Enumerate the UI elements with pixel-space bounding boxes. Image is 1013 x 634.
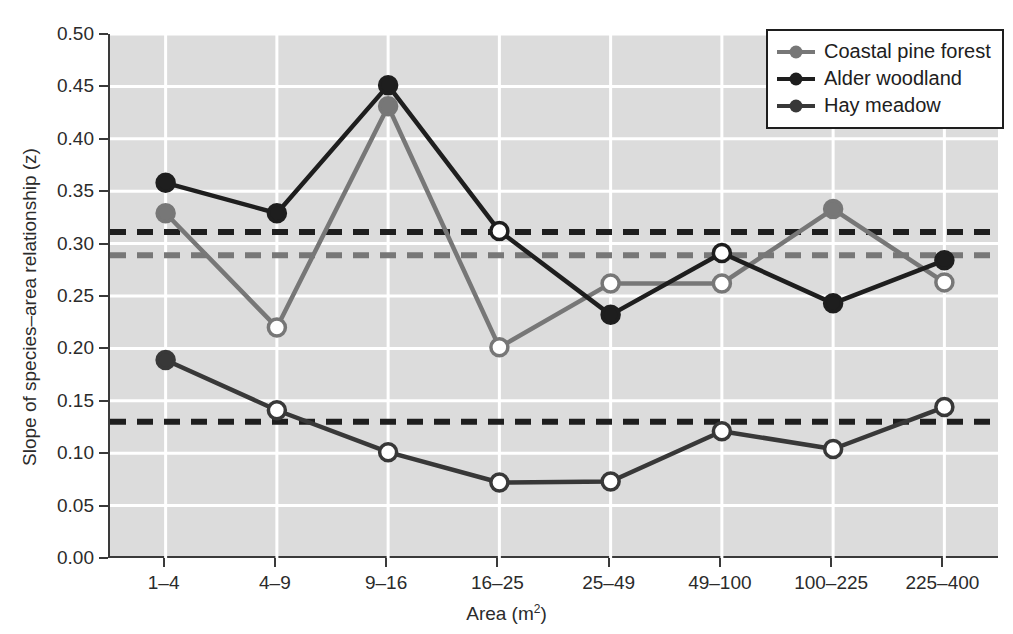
y-tick-label: 0.10	[0, 442, 94, 464]
data-point-alder-woodland-3[interactable]	[491, 223, 508, 240]
data-point-alder-woodland-4[interactable]	[602, 306, 619, 323]
legend-label: Alder woodland	[824, 67, 962, 90]
chart-figure: Slope of species–area relationship (z) 0…	[0, 0, 1013, 634]
y-tick-label: 0.50	[0, 23, 94, 45]
y-tick-label: 0.35	[0, 180, 94, 202]
data-point-alder-woodland-6[interactable]	[825, 295, 842, 312]
y-tick-label: 0.00	[0, 547, 94, 569]
y-tick-label: 0.15	[0, 390, 94, 412]
legend-item[interactable]: Coastal pine forest	[777, 38, 991, 65]
x-tick-label: 100–225	[794, 572, 868, 594]
x-tick-mark	[385, 558, 387, 567]
data-point-coastal-pine-forest-5[interactable]	[713, 275, 730, 292]
data-point-hay-meadow-0[interactable]	[157, 351, 174, 368]
legend-marker-icon	[777, 45, 815, 59]
legend-marker-icon	[777, 99, 815, 113]
data-point-coastal-pine-forest-3[interactable]	[491, 339, 508, 356]
y-tick-mark	[99, 85, 108, 87]
data-point-hay-meadow-4[interactable]	[602, 473, 619, 490]
y-tick-mark	[99, 295, 108, 297]
legend-dot	[790, 99, 803, 112]
data-point-hay-meadow-5[interactable]	[713, 423, 730, 440]
legend-item[interactable]: Alder woodland	[777, 65, 991, 92]
data-point-hay-meadow-1[interactable]	[268, 402, 285, 419]
legend: Coastal pine forestAlder woodlandHay mea…	[766, 29, 1004, 129]
y-tick-label: 0.30	[0, 233, 94, 255]
data-point-coastal-pine-forest-2[interactable]	[380, 98, 397, 115]
x-tick-mark	[274, 558, 276, 567]
x-tick-label: 1–4	[148, 572, 180, 594]
data-point-coastal-pine-forest-1[interactable]	[268, 319, 285, 336]
data-point-alder-woodland-2[interactable]	[380, 77, 397, 94]
x-axis-label-tail: )	[540, 603, 546, 624]
legend-dot	[790, 45, 803, 58]
x-tick-label: 225–400	[905, 572, 979, 594]
x-tick-mark	[941, 558, 943, 567]
y-tick-label: 0.20	[0, 337, 94, 359]
data-point-coastal-pine-forest-6[interactable]	[825, 201, 842, 218]
legend-marker-icon	[777, 72, 815, 86]
data-point-coastal-pine-forest-7[interactable]	[936, 274, 953, 291]
data-point-alder-woodland-0[interactable]	[157, 174, 174, 191]
data-point-hay-meadow-3[interactable]	[491, 474, 508, 491]
data-point-alder-woodland-5[interactable]	[713, 245, 730, 262]
x-tick-mark	[830, 558, 832, 567]
data-point-alder-woodland-1[interactable]	[268, 205, 285, 222]
y-tick-label: 0.05	[0, 495, 94, 517]
x-tick-label: 4–9	[259, 572, 291, 594]
x-axis-label-base: Area (m	[466, 603, 534, 624]
data-point-coastal-pine-forest-4[interactable]	[602, 275, 619, 292]
x-tick-label: 9–16	[365, 572, 407, 594]
data-point-hay-meadow-6[interactable]	[825, 441, 842, 458]
y-tick-mark	[99, 452, 108, 454]
x-tick-mark	[496, 558, 498, 567]
y-tick-mark	[99, 190, 108, 192]
data-point-alder-woodland-7[interactable]	[936, 252, 953, 269]
x-tick-label: 25–49	[582, 572, 635, 594]
legend-label: Hay meadow	[824, 94, 941, 117]
y-tick-mark	[99, 243, 108, 245]
data-point-hay-meadow-2[interactable]	[380, 444, 397, 461]
legend-dot	[790, 72, 803, 85]
data-point-hay-meadow-7[interactable]	[936, 399, 953, 416]
y-tick-mark	[99, 505, 108, 507]
y-tick-mark	[99, 33, 108, 35]
x-tick-mark	[163, 558, 165, 567]
data-point-coastal-pine-forest-0[interactable]	[157, 205, 174, 222]
legend-item[interactable]: Hay meadow	[777, 92, 991, 119]
x-axis-label: Area (m2)	[0, 602, 1013, 625]
y-tick-mark	[99, 138, 108, 140]
y-tick-mark	[99, 557, 108, 559]
x-tick-mark	[608, 558, 610, 567]
y-tick-label: 0.25	[0, 285, 94, 307]
y-tick-mark	[99, 400, 108, 402]
x-tick-label: 49–100	[688, 572, 751, 594]
y-tick-mark	[99, 347, 108, 349]
x-tick-mark	[719, 558, 721, 567]
x-tick-label: 16–25	[471, 572, 524, 594]
y-tick-label: 0.45	[0, 75, 94, 97]
y-tick-label: 0.40	[0, 128, 94, 150]
legend-label: Coastal pine forest	[824, 40, 991, 63]
